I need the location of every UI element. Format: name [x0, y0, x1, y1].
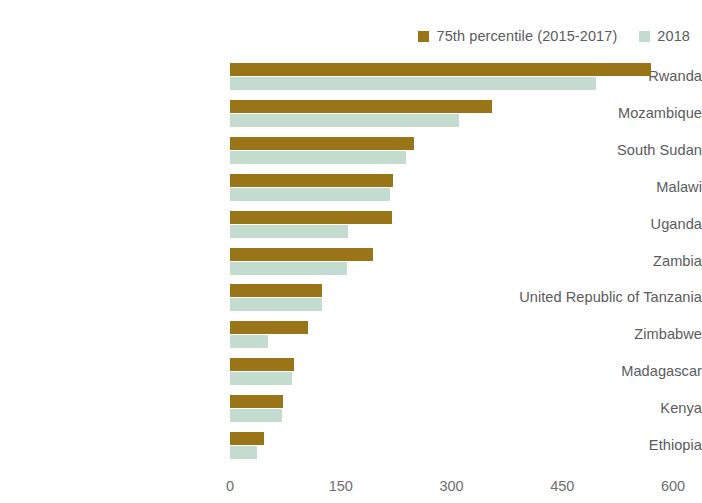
- bar: [230, 77, 596, 90]
- horizontal-bar-chart: 75th percentile (2015-2017) 2018 RwandaM…: [0, 0, 702, 503]
- category-label: Zimbabwe: [478, 327, 702, 342]
- category-label: South Sudan: [478, 143, 702, 158]
- bar: [230, 446, 257, 459]
- plot-area: RwandaMozambiqueSouth SudanMalawiUgandaZ…: [0, 0, 702, 503]
- bar: [230, 321, 308, 334]
- category-label: Madagascar: [478, 364, 702, 379]
- bar: [230, 409, 282, 422]
- bar: [230, 298, 322, 311]
- bar: [230, 284, 322, 297]
- bar: [230, 100, 492, 113]
- bar: [230, 335, 268, 348]
- bar: [230, 174, 393, 187]
- bar: [230, 188, 390, 201]
- bar: [230, 151, 406, 164]
- bar: [230, 372, 292, 385]
- category-label: Mozambique: [478, 106, 702, 121]
- category-label: Kenya: [478, 401, 702, 416]
- bar: [230, 225, 348, 238]
- category-label: Uganda: [478, 217, 702, 232]
- category-label: Zambia: [478, 254, 702, 269]
- bar: [230, 262, 347, 275]
- bar: [230, 248, 373, 261]
- x-axis-tick-label: 150: [329, 479, 353, 494]
- bar: [230, 358, 294, 371]
- category-label: United Republic of Tanzania: [478, 290, 702, 305]
- bar: [230, 211, 392, 224]
- bar: [230, 432, 264, 445]
- x-axis-tick-label: 600: [661, 479, 685, 494]
- bar: [230, 395, 283, 408]
- bar: [230, 63, 651, 76]
- x-axis-tick-label: 450: [550, 479, 574, 494]
- x-axis-tick-label: 300: [439, 479, 463, 494]
- category-label: Ethiopia: [478, 438, 702, 453]
- bar: [230, 137, 414, 150]
- bar: [230, 114, 459, 127]
- category-label: Malawi: [478, 180, 702, 195]
- x-axis-tick-label: 0: [226, 479, 234, 494]
